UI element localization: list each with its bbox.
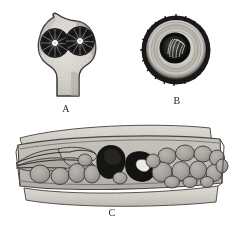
panel-b-caption: B [167, 96, 187, 106]
panel-c-cell [51, 168, 69, 185]
panel-a-flask-shaped-body [24, 8, 110, 104]
panel-c-cell [78, 154, 92, 166]
panel-a-caption: A [56, 104, 76, 114]
panel-c-tissue-cross-section [14, 116, 230, 208]
panel-c-cell [146, 154, 160, 168]
panel-a-inclusion-left [41, 29, 70, 58]
panel-b-circular-cyst [134, 12, 218, 94]
panel-a-inclusion-right [66, 27, 95, 56]
panel-c-cell [201, 177, 214, 188]
panel-b-inner-core [160, 33, 191, 64]
panel-c-caption: C [102, 208, 122, 218]
panel-c-cell [176, 145, 195, 161]
panel-c-cell [183, 177, 197, 188]
panel-c-cell [165, 176, 180, 188]
panel-c-cell [69, 164, 86, 183]
panel-c-cell [216, 159, 228, 173]
panel-a-stalk-shadow [71, 71, 79, 96]
figure-plate: A [0, 0, 240, 229]
panel-c-cell [113, 172, 127, 184]
panel-c-cell [30, 165, 50, 183]
panel-c-cell [158, 148, 176, 164]
